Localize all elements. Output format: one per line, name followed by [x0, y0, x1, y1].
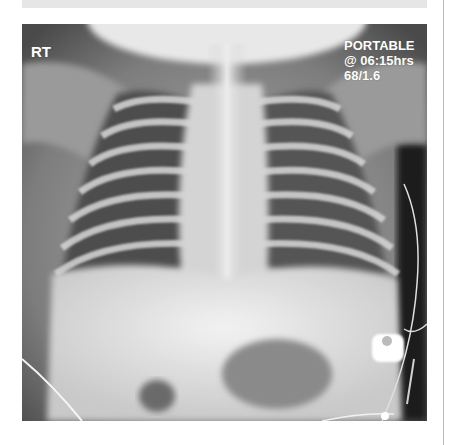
acquisition-info: PORTABLE @ 06:15hrs 68/1.6: [344, 38, 415, 83]
page-divider: [443, 0, 444, 445]
chest-xray-image: RT PORTABLE @ 06:15hrs 68/1.6: [22, 24, 427, 421]
exposure-label: 68/1.6: [344, 68, 415, 83]
portable-label: PORTABLE: [344, 38, 415, 53]
top-bar: [22, 0, 427, 8]
time-label: @ 06:15hrs: [344, 53, 415, 68]
side-marker-label: RT: [31, 44, 51, 59]
xray-rendering: [22, 24, 427, 421]
